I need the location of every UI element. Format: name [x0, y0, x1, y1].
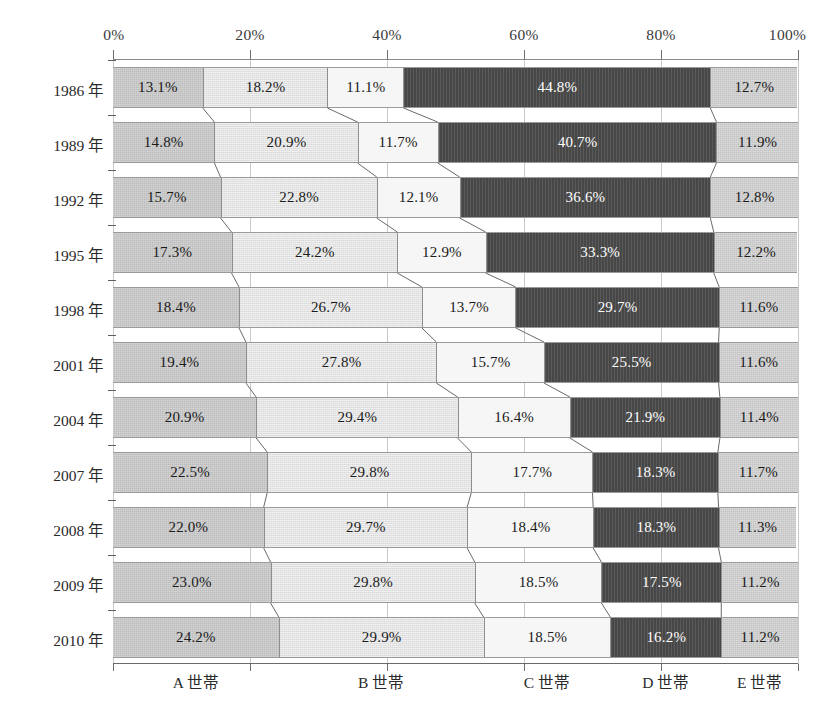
- bar-segment: 11.4%: [720, 397, 798, 438]
- bar-segment-value-label: 18.4%: [511, 519, 551, 536]
- bar-segment-value-label: 11.2%: [741, 574, 780, 591]
- bar-segment: 11.2%: [721, 617, 798, 658]
- bar-row: 23.0%29.8%18.5%17.5%11.2%: [113, 562, 798, 603]
- bar-segment-value-label: 17.3%: [152, 244, 192, 261]
- bar-segment: 13.7%: [422, 287, 516, 328]
- legend-item: B 世帯: [358, 670, 404, 692]
- bar-segment: 20.9%: [113, 397, 256, 438]
- bar-segment: 29.4%: [256, 397, 457, 438]
- bar-segment: 17.5%: [601, 562, 721, 603]
- bar-segment-value-label: 40.7%: [558, 134, 598, 151]
- bar-segment: 33.3%: [486, 232, 714, 273]
- category-label: 2009 年: [0, 573, 104, 595]
- bar-segment: 17.7%: [471, 452, 592, 493]
- bar-segment-value-label: 15.7%: [147, 189, 187, 206]
- bar-segment-value-label: 19.4%: [160, 354, 200, 371]
- bar-segment-value-label: 24.2%: [295, 244, 335, 261]
- bar-row: 18.4%26.7%13.7%29.7%11.6%: [113, 287, 798, 328]
- bar-segment-value-label: 12.1%: [399, 189, 439, 206]
- bar-segment-value-label: 18.3%: [636, 464, 676, 481]
- bar-row: 17.3%24.2%12.9%33.3%12.2%: [113, 232, 798, 273]
- bar-segment-value-label: 17.5%: [642, 574, 682, 591]
- legend-item: D 世帯: [642, 670, 689, 692]
- bar-segment-value-label: 11.3%: [738, 519, 777, 536]
- bar-segment: 29.8%: [267, 452, 471, 493]
- bar-segment: 15.7%: [436, 342, 544, 383]
- x-axis-tick-label: 100%: [769, 26, 806, 44]
- bar-segment-value-label: 24.2%: [176, 629, 216, 646]
- bar-segment: 18.3%: [593, 507, 718, 548]
- bar-segment-value-label: 29.8%: [350, 464, 390, 481]
- category-label: 2001 年: [0, 353, 104, 375]
- bar-row: 20.9%29.4%16.4%21.9%11.4%: [113, 397, 798, 438]
- bar-segment: 21.9%: [570, 397, 720, 438]
- bar-segment: 29.7%: [515, 287, 718, 328]
- category-label: 1989 年: [0, 133, 104, 155]
- stacked-bar-chart: 0%20%40%60%80%100% 1986 年1989 年1992 年199…: [0, 0, 833, 713]
- legend-item: C 世帯: [524, 670, 570, 692]
- bar-segment: 11.9%: [716, 122, 798, 163]
- gridline: [798, 60, 799, 664]
- bar-segment: 12.1%: [377, 177, 460, 218]
- bar-row: 22.5%29.8%17.7%18.3%11.7%: [113, 452, 798, 493]
- bar-row: 19.4%27.8%15.7%25.5%11.6%: [113, 342, 798, 383]
- category-label: 1995 年: [0, 243, 104, 265]
- bar-segment-value-label: 20.9%: [267, 134, 307, 151]
- bar-segment-value-label: 23.0%: [172, 574, 212, 591]
- bar-segment: 19.4%: [113, 342, 246, 383]
- bar-segment: 14.8%: [113, 122, 214, 163]
- bar-segment-value-label: 11.6%: [739, 299, 778, 316]
- bar-segment-value-label: 12.9%: [422, 244, 462, 261]
- bar-segment: 11.3%: [719, 507, 796, 548]
- bar-row: 13.1%18.2%11.1%44.8%12.7%: [113, 67, 798, 108]
- bar-segment-value-label: 18.5%: [519, 574, 559, 591]
- bar-segment-value-label: 12.8%: [735, 189, 775, 206]
- x-axis-tick-label: 20%: [235, 26, 264, 44]
- bar-segment: 18.4%: [113, 287, 239, 328]
- bar-segment: 20.9%: [214, 122, 357, 163]
- bar-segment-value-label: 29.9%: [362, 629, 402, 646]
- bar-segment: 17.3%: [113, 232, 232, 273]
- bar-segment-value-label: 44.8%: [537, 79, 577, 96]
- bar-row: 24.2%29.9%18.5%16.2%11.2%: [113, 617, 798, 658]
- bar-segment: 18.5%: [475, 562, 602, 603]
- bar-segment: 18.3%: [592, 452, 717, 493]
- bar-segment-value-label: 22.8%: [279, 189, 319, 206]
- bar-segment: 18.2%: [203, 67, 328, 108]
- x-axis-tick-label: 40%: [372, 26, 401, 44]
- bar-segment-value-label: 36.6%: [566, 189, 606, 206]
- bar-segment-value-label: 11.7%: [739, 464, 778, 481]
- bar-segment: 22.8%: [221, 177, 377, 218]
- bar-segment: 40.7%: [438, 122, 717, 163]
- bar-segment-value-label: 14.8%: [144, 134, 184, 151]
- bar-segment-value-label: 21.9%: [625, 409, 665, 426]
- bar-segment: 27.8%: [246, 342, 436, 383]
- bar-segment: 29.7%: [264, 507, 467, 548]
- bar-segment: 18.5%: [484, 617, 611, 658]
- bar-segment: 44.8%: [403, 67, 710, 108]
- bar-row: 14.8%20.9%11.7%40.7%11.9%: [113, 122, 798, 163]
- bar-segment: 29.8%: [271, 562, 475, 603]
- bar-segment-value-label: 13.7%: [449, 299, 489, 316]
- bar-segment: 22.5%: [113, 452, 267, 493]
- bar-segment: 11.7%: [358, 122, 438, 163]
- bar-segment: 12.8%: [710, 177, 798, 218]
- category-label: 2008 年: [0, 518, 104, 540]
- bar-segment-value-label: 29.7%: [346, 519, 386, 536]
- bar-segment: 12.2%: [714, 232, 798, 273]
- bar-segment: 16.4%: [458, 397, 570, 438]
- y-axis-category-labels: 1986 年1989 年1992 年1995 年1998 年2001 年2004…: [0, 0, 104, 713]
- bar-segment-value-label: 20.9%: [165, 409, 205, 426]
- bar-segment-value-label: 11.2%: [741, 629, 780, 646]
- legend: A 世帯B 世帯C 世帯D 世帯E 世帯: [113, 668, 798, 700]
- bar-segment-value-label: 13.1%: [138, 79, 178, 96]
- bar-segment-value-label: 11.7%: [379, 134, 418, 151]
- bar-segment-value-label: 22.0%: [168, 519, 208, 536]
- bar-segment-value-label: 11.6%: [739, 354, 778, 371]
- category-label: 2010 年: [0, 628, 104, 650]
- bar-segment: 16.2%: [610, 617, 721, 658]
- plot-area: 13.1%18.2%11.1%44.8%12.7%14.8%20.9%11.7%…: [113, 60, 798, 665]
- bar-segment-value-label: 16.2%: [646, 629, 686, 646]
- bar-segment-value-label: 33.3%: [580, 244, 620, 261]
- bar-segment-value-label: 18.3%: [636, 519, 676, 536]
